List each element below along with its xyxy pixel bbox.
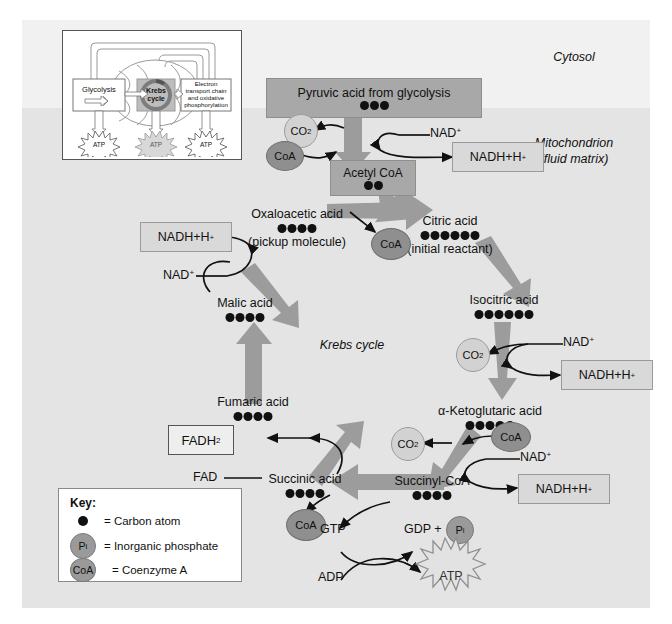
citric-acid-label: Citric acid <box>423 214 478 228</box>
gtp-label: GTP <box>320 522 346 536</box>
co2-label: CO <box>398 438 415 450</box>
oxaloacetic-acid-sublabel: (pickup molecule) <box>248 235 346 249</box>
svg-text:and oxidative: and oxidative <box>188 94 225 101</box>
cytosol-label: Cytosol <box>553 50 595 64</box>
fumaric-acid-label: Fumaric acid <box>217 395 289 409</box>
svg-text:ATP: ATP <box>200 141 212 148</box>
svg-text:Electron: Electron <box>195 80 218 87</box>
coa-label: CoA <box>500 431 521 443</box>
nad-plus-ketoglutarate: NAD+ <box>520 450 551 464</box>
ketoglutaric-acid-label: α-Ketoglutaric acid <box>438 404 542 418</box>
key-row-phosphate: Pi = Inorganic phosphate <box>70 533 218 559</box>
malic-acid-label: Malic acid <box>217 296 273 310</box>
gdp-label: GDP + <box>404 522 442 536</box>
citric-acid-sublabel: (initial reactant) <box>407 242 492 256</box>
oxaloacetic-acid-label: Oxaloacetic acid <box>251 207 343 221</box>
svg-text:transport chain: transport chain <box>186 87 227 94</box>
fadh2-label: FADH <box>181 433 216 448</box>
nadh-box-ketoglutarate: NADH+H+ <box>518 474 610 504</box>
pyruvic-acid-box: Pyruvic acid from glycolysis <box>266 78 482 118</box>
coa-token-ketoglutarate: CoA <box>491 422 531 452</box>
mitochondrion-sublabel: (fluid matrix) <box>540 152 609 166</box>
nadh-label: NADH+H <box>158 230 210 244</box>
co2-token-ketoglutarate: CO2 <box>391 427 425 461</box>
succinyl-coa-carbons <box>413 491 452 500</box>
succinyl-coa-label: Succinyl-CoA <box>394 474 469 488</box>
key-phosphate-text: = Inorganic phosphate <box>104 540 218 552</box>
svg-text:ATP: ATP <box>93 141 105 148</box>
coa-label: CoA <box>295 519 316 531</box>
co2-label: CO <box>291 125 308 137</box>
pyruvic-acid-label: Pyruvic acid from glycolysis <box>298 86 451 100</box>
isocitric-acid-carbons <box>475 310 534 319</box>
oxaloacetic-acid-carbons <box>278 224 317 233</box>
coa-token-icon: CoA <box>70 558 96 582</box>
co2-token-isocitrate: CO2 <box>456 338 490 372</box>
coa-label: CoA <box>380 238 401 250</box>
nadh-label: NADH+H <box>470 150 522 164</box>
nad-plus-pyruvate: NAD+ <box>430 126 461 140</box>
citric-acid-carbons <box>421 231 480 240</box>
coa-token-citrate: CoA <box>371 228 411 260</box>
svg-text:ATP: ATP <box>150 141 162 148</box>
mitochondrion-label: Mitochondrion <box>535 136 614 150</box>
succinic-acid-carbons <box>286 489 325 498</box>
overview-inset-panel: Krebs cycle Glycolysis Electron transpor… <box>62 30 242 160</box>
acetyl-coa-carbons <box>364 181 383 190</box>
pi-label: P <box>455 524 462 536</box>
nadh-label: NADH+H <box>536 482 588 496</box>
key-coenzyme-text: = Coenzyme A <box>112 564 187 576</box>
nadh-box-malate: NADH+H+ <box>140 222 232 252</box>
acetyl-coa-label: Acetyl CoA <box>343 166 402 180</box>
malic-acid-carbons <box>226 313 265 322</box>
inset-krebs-line2: cycle <box>147 95 165 103</box>
fumaric-acid-carbons <box>234 412 273 421</box>
acetyl-coa-box: Acetyl CoA <box>330 160 416 196</box>
fad-label: FAD <box>193 470 217 484</box>
key-row-coenzyme: CoA = Coenzyme A <box>70 558 187 582</box>
nadh-label: NADH+H <box>579 368 631 382</box>
adp-label: ADP <box>318 570 344 584</box>
fadh2-box: FADH2 <box>168 425 234 455</box>
atp-label: ATP <box>439 569 462 583</box>
nadh-box-pyruvate: NADH+H+ <box>452 142 544 172</box>
inset-graphic: Krebs cycle Glycolysis Electron transpor… <box>63 31 239 157</box>
pyruvic-acid-carbons <box>360 101 389 110</box>
carbon-dot-icon <box>70 516 96 526</box>
isocitric-acid-label: Isocitric acid <box>470 293 539 307</box>
nadh-box-isocitrate: NADH+H+ <box>561 360 653 390</box>
coa-label: CoA <box>274 150 295 162</box>
pi-token-icon: Pi <box>70 533 96 559</box>
svg-text:phosphorylation: phosphorylation <box>184 101 228 108</box>
succinic-acid-label: Succinic acid <box>269 472 342 486</box>
coa-token-acetyl: CoA <box>266 141 304 171</box>
key-carbon-text: = Carbon atom <box>104 515 180 527</box>
inset-glycolysis-label: Glycolysis <box>82 85 116 94</box>
krebs-cycle-center-label: Krebs cycle <box>320 338 385 352</box>
nad-plus-malate: NAD+ <box>163 268 194 282</box>
inset-krebs-line1: Krebs <box>146 87 166 94</box>
krebs-cycle-diagram: Cytosol Mitochondrion (fluid matrix) Kre… <box>0 0 672 624</box>
co2-label: CO <box>463 349 480 361</box>
key-row-carbon: = Carbon atom <box>70 515 180 527</box>
pi-token-gdp: Pi <box>446 516 474 544</box>
key-title: Key: <box>70 496 96 510</box>
nad-plus-isocitrate: NAD+ <box>563 335 594 349</box>
